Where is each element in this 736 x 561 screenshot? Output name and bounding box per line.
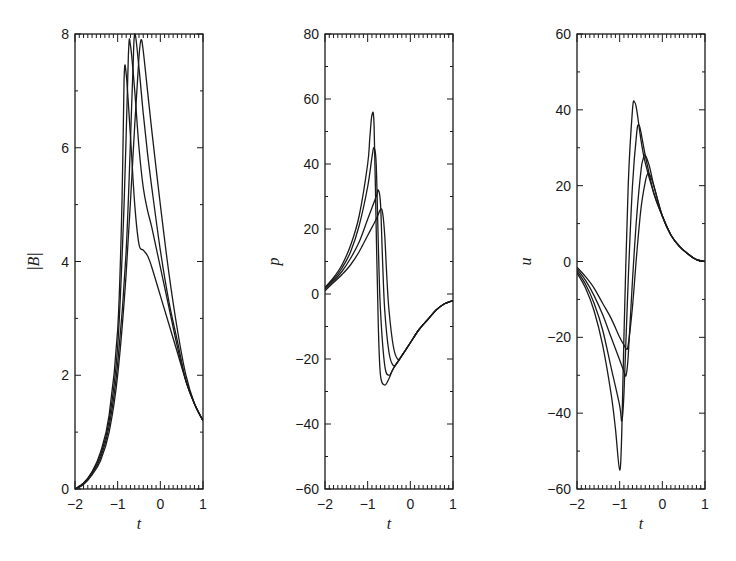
series-group	[75, 34, 203, 489]
x-tick-label: −1	[612, 496, 628, 512]
y-tick-label: 20	[555, 178, 571, 194]
y-tick-label: −40	[547, 405, 571, 421]
y-tick-label: 4	[61, 254, 69, 270]
x-tick-label: −2	[67, 496, 83, 512]
y-axis-label: |B|	[25, 252, 43, 271]
y-tick-label: 2	[61, 367, 69, 383]
panel-magnetic-field: −2−10102468t|B|	[25, 26, 207, 532]
data-series-line	[325, 190, 453, 366]
x-axis-label: t	[639, 515, 644, 532]
y-tick-label: 0	[311, 286, 319, 302]
data-series-line	[577, 101, 705, 470]
x-tick-label: 1	[199, 496, 207, 512]
y-axis-label: u	[517, 258, 534, 266]
data-series-line	[75, 40, 203, 489]
y-tick-label: 8	[61, 26, 69, 42]
panel-velocity: −2−101−60−40−200204060tu	[517, 26, 709, 532]
figure: −2−10102468t|B| −2−101−60−40−20020406080…	[0, 0, 736, 561]
x-tick-label: −2	[317, 496, 333, 512]
y-tick-label: 6	[61, 140, 69, 156]
series-group	[577, 101, 705, 470]
panel-pressure: −2−101−60−40−20020406080tp	[265, 26, 457, 532]
data-series-line	[75, 65, 203, 489]
data-series-line	[577, 155, 705, 376]
x-tick-label: −2	[569, 496, 585, 512]
data-series-line	[325, 112, 453, 385]
x-axis-label: t	[387, 515, 392, 532]
y-ticks	[577, 34, 705, 489]
data-series-line	[577, 173, 705, 349]
y-tick-label: 60	[555, 26, 571, 42]
x-tick-label: 1	[701, 496, 709, 512]
y-tick-label: 80	[303, 26, 319, 42]
y-ticks	[75, 34, 203, 489]
x-tick-label: 0	[156, 496, 164, 512]
y-tick-label: 60	[303, 91, 319, 107]
y-axis-label: p	[265, 258, 283, 267]
x-tick-label: 0	[406, 496, 414, 512]
x-tick-label: −1	[360, 496, 376, 512]
plot-frame	[577, 34, 705, 489]
y-tick-label: −40	[295, 416, 319, 432]
y-tick-label: 20	[303, 221, 319, 237]
data-series-line	[325, 209, 453, 360]
y-tick-label: 0	[61, 481, 69, 497]
series-group	[325, 112, 453, 385]
y-tick-label: 40	[555, 102, 571, 118]
y-tick-label: −60	[295, 481, 319, 497]
y-tick-label: −20	[547, 329, 571, 345]
y-tick-label: −60	[547, 481, 571, 497]
x-ticks	[577, 34, 705, 489]
x-tick-label: 0	[658, 496, 666, 512]
y-tick-label: 0	[563, 254, 571, 270]
y-tick-label: −20	[295, 351, 319, 367]
x-tick-label: 1	[449, 496, 457, 512]
data-series-line	[75, 34, 203, 489]
data-series-line	[75, 39, 203, 489]
x-axis-label: t	[137, 515, 142, 532]
plot-frame	[75, 34, 203, 489]
x-tick-label: −1	[110, 496, 126, 512]
y-tick-label: 40	[303, 156, 319, 172]
x-ticks	[75, 34, 203, 489]
